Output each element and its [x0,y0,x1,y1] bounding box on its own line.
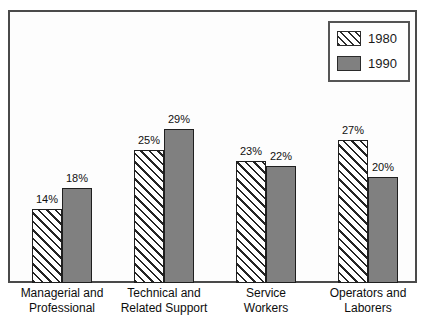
bar-1990-operators[interactable] [368,177,398,283]
category-axis-labels: Managerial and Professional Technical an… [10,286,415,322]
legend-item-1990[interactable]: 1990 [337,54,401,73]
bar-1980-technical[interactable] [134,150,164,283]
bar-value-1980-operators: 27% [331,125,375,136]
bar-value-1990-service: 22% [259,151,303,162]
bar-group-managerial-and-professional: 14% 18% [18,12,106,283]
legend-item-1980[interactable]: 1980 [337,29,401,48]
bar-1980-service[interactable] [236,161,266,283]
category-label-line2: Professional [10,301,114,316]
legend: 1980 1990 [328,21,410,82]
bar-value-1980-managerial: 14% [25,194,69,205]
bar-chart: 14% 18% 25% 29% 23% 22% [0,0,428,323]
bar-value-1990-operators: 20% [361,162,405,173]
bar-group-bars: 25% 29% [120,12,208,283]
category-label-managerial-and-professional: Managerial and Professional [10,286,114,315]
legend-label-1990: 1990 [368,57,397,70]
category-label-line2: Laborers [316,301,420,316]
category-label-line2: Workers [214,301,318,316]
legend-label-1980: 1980 [368,32,397,45]
solid-swatch-icon [337,56,361,71]
category-label-line1: Managerial and [21,286,104,300]
clipped-header-text [0,0,428,7]
bar-group-bars: 23% 22% [222,12,310,283]
bar-value-1990-managerial: 18% [55,173,99,184]
bar-value-1990-technical: 29% [157,114,201,125]
category-label-line1: Service [246,286,286,300]
category-label-line2: Related Support [112,301,216,316]
category-label-line1: Technical and [127,286,200,300]
bar-group-bars: 14% 18% [18,12,106,283]
bar-1980-managerial[interactable] [32,209,62,283]
category-label-line1: Operators and [330,286,407,300]
hatch-swatch-icon [337,31,361,46]
bar-1990-service[interactable] [266,166,296,283]
bar-1990-technical[interactable] [164,129,194,283]
bar-value-1980-technical: 25% [127,135,171,146]
bar-group-technical-and-related-support: 25% 29% [120,12,208,283]
category-label-service-workers: Service Workers [214,286,318,315]
category-label-technical-and-related-support: Technical and Related Support [112,286,216,315]
category-label-operators-and-laborers: Operators and Laborers [316,286,420,315]
bar-group-service-workers: 23% 22% [222,12,310,283]
